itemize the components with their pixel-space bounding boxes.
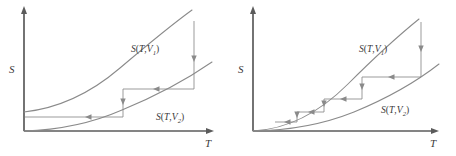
x-axis: [253, 128, 439, 134]
step-arrow-vertical-2: [120, 89, 125, 117]
step-arrow-vertical-1: [418, 22, 423, 77]
upper-isochore-curve: [24, 10, 192, 112]
lower-label-close-paren: ): [406, 104, 409, 116]
upper-curve-label: S(T,V1): [131, 43, 159, 56]
lower-label-close-paren: ): [181, 111, 184, 123]
upper-label-close-paren: ): [156, 43, 159, 55]
step-arrow-horizontal-4: [275, 119, 297, 124]
x-axis-label: T: [205, 137, 212, 149]
y-axis-label: S: [9, 63, 15, 75]
y-axis: [250, 6, 256, 131]
step-arrow-vertical-4: [294, 112, 299, 123]
entropy-temperature-figure: S T S(T,V1) S(T,V2): [0, 0, 456, 156]
upper-label-close-paren: ): [384, 43, 387, 55]
lower-curve-label: S(T,V2): [156, 111, 184, 124]
step-arrow-vertical-1: [191, 21, 196, 89]
fine-staircase-panel: S T S(T,V1) S(T,V2): [228, 0, 456, 156]
y-axis-label: S: [238, 63, 244, 75]
coarse-staircase-panel: S T S(T,V1) S(T,V2): [0, 0, 228, 156]
upper-curve-label: S(T,V1): [359, 43, 387, 56]
step-arrow-horizontal-1: [123, 86, 194, 91]
step-arrow-horizontal-1: [362, 74, 421, 79]
lower-curve-label: S(T,V2): [381, 104, 409, 117]
x-axis-label: T: [430, 137, 437, 149]
step-arrow-vertical-2: [359, 77, 364, 99]
